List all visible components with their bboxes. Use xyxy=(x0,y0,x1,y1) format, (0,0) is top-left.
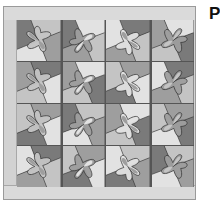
pinwheel-star-icon xyxy=(62,20,106,61)
pinwheel-star-icon xyxy=(151,104,195,145)
quilt-block xyxy=(62,20,106,61)
pinwheel-star-icon xyxy=(106,146,150,187)
quilt-border-bottom xyxy=(4,185,195,199)
pinwheel-star-icon xyxy=(17,62,61,103)
pinwheel-star-icon xyxy=(106,104,150,145)
quilt-block xyxy=(62,104,106,145)
pinwheel-star-icon xyxy=(17,20,61,61)
quilt-block-grid xyxy=(17,20,194,187)
quilt-block xyxy=(106,104,150,145)
quilt-block xyxy=(62,62,106,103)
quilt-block xyxy=(106,146,150,187)
pinwheel-star-icon xyxy=(17,146,61,187)
pinwheel-star-icon xyxy=(62,62,106,103)
quilt-block xyxy=(17,104,61,145)
pinwheel-star-icon xyxy=(151,146,195,187)
quilt-block xyxy=(106,20,150,61)
quilt-block xyxy=(17,20,61,61)
pinwheel-star-icon xyxy=(62,104,106,145)
quilt-block xyxy=(17,146,61,187)
pinwheel-star-icon xyxy=(151,20,195,61)
quilt-block xyxy=(106,62,150,103)
quilt xyxy=(3,6,196,200)
pinwheel-star-icon xyxy=(106,20,150,61)
pinwheel-star-icon xyxy=(106,62,150,103)
quilt-border-top xyxy=(4,7,195,21)
page-label: P xyxy=(209,4,220,24)
pinwheel-star-icon xyxy=(151,62,195,103)
quilt-block xyxy=(151,62,195,103)
quilt-block xyxy=(151,20,195,61)
quilt-block xyxy=(151,104,195,145)
quilt-block xyxy=(62,146,106,187)
quilt-block xyxy=(17,62,61,103)
quilt-block xyxy=(151,146,195,187)
pinwheel-star-icon xyxy=(17,104,61,145)
pinwheel-star-icon xyxy=(62,146,106,187)
quilt-border-left xyxy=(4,20,17,186)
